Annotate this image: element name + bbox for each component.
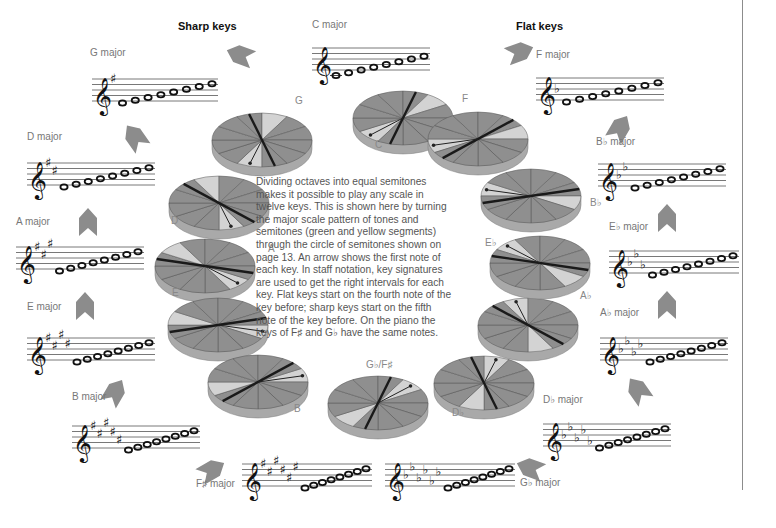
whole-note-icon <box>672 267 679 272</box>
whole-note-icon <box>649 272 656 277</box>
sharp-icon: ♯ <box>52 163 58 178</box>
whole-note-icon <box>471 477 478 482</box>
whole-note-icon <box>56 268 63 273</box>
whole-note-icon <box>109 173 116 178</box>
whole-note-icon <box>145 165 152 170</box>
key-label-eb: E♭ major <box>609 221 648 232</box>
whole-note-icon <box>657 357 664 362</box>
whole-note-icon <box>85 179 92 184</box>
whole-note-icon <box>157 92 164 97</box>
sharp-icon: ♯ <box>45 155 51 170</box>
wheel-label: B <box>294 403 301 414</box>
key-label-b: B major <box>72 391 106 402</box>
whole-note-icon <box>624 437 631 442</box>
whole-note-icon <box>718 256 725 261</box>
whole-note-icon <box>196 84 203 89</box>
flat-icon: ♭ <box>410 460 416 474</box>
sharp-icon: ♯ <box>103 415 109 430</box>
sharp-icon: ♯ <box>110 71 116 86</box>
whole-note-icon <box>680 174 687 179</box>
wheel-4 <box>155 239 255 302</box>
whole-note-icon <box>67 266 74 271</box>
whole-note-icon <box>60 184 67 189</box>
whole-note-icon <box>596 445 603 450</box>
whole-note-icon <box>729 253 736 258</box>
chevron-arrow-icon <box>120 120 151 153</box>
key-label-ab: A♭ major <box>600 307 639 318</box>
flat-icon: ♭ <box>423 463 429 477</box>
whole-note-icon <box>73 359 80 364</box>
whole-note-icon <box>125 447 132 452</box>
staff-db: 𝄞♭♭♭♭♭ <box>543 420 671 461</box>
circle-of-fifths-diagram: Sharp keys Flat keys 𝄞𝄞♯𝄞♯♯𝄞♯♯♯𝄞♯♯♯♯𝄞♯♯♯… <box>0 0 776 528</box>
whole-note-icon <box>706 259 713 264</box>
chevron-arrow-icon <box>658 204 676 232</box>
chevron-arrow-icon <box>504 39 536 65</box>
sharp-icon: ♯ <box>273 453 279 468</box>
key-label-c: C major <box>312 19 347 30</box>
whole-note-icon <box>104 351 111 356</box>
flat-icon: ♭ <box>634 247 640 261</box>
whole-note-icon <box>605 443 612 448</box>
sharp-icon: ♯ <box>52 338 58 353</box>
whole-note-icon <box>641 83 648 88</box>
wheel-10 <box>490 236 590 299</box>
whole-note-icon <box>362 466 369 471</box>
whole-note-icon <box>208 81 215 86</box>
flat-icon: ♭ <box>623 160 629 174</box>
wheel-label: C <box>375 139 382 150</box>
sharp-icon: ♯ <box>293 459 299 474</box>
wheel-2 <box>212 113 312 176</box>
flat-icon: ♭ <box>574 431 580 445</box>
key-label-db: D♭ major <box>543 394 583 405</box>
sharp-icon: ♯ <box>34 239 40 254</box>
sharp-icon: ♯ <box>47 236 53 251</box>
whole-note-icon <box>661 426 668 431</box>
chevron-arrow-icon <box>623 373 654 406</box>
staff-a: 𝄞♯♯♯ <box>16 236 144 284</box>
whole-note-icon <box>453 483 460 488</box>
sharp-icon: ♯ <box>41 247 47 262</box>
flat-icon: ♭ <box>587 434 593 448</box>
wheel-label: B♭ <box>590 197 601 208</box>
whole-note-icon <box>628 86 635 91</box>
whole-note-icon <box>667 354 674 359</box>
whole-note-icon <box>646 359 653 364</box>
whole-note-icon <box>615 88 622 93</box>
whole-note-icon <box>654 80 661 85</box>
chevron-arrow-icon <box>79 208 97 236</box>
whole-note-icon <box>354 469 361 474</box>
whole-note-icon <box>462 480 469 485</box>
chevron-arrow-icon <box>76 292 94 320</box>
whole-note-icon <box>119 100 126 105</box>
whole-note-icon <box>370 65 377 70</box>
whole-note-icon <box>656 180 663 185</box>
flat-icon: ♭ <box>554 82 560 96</box>
flat-icon: ♭ <box>568 420 574 434</box>
whole-note-icon <box>97 176 104 181</box>
whole-note-icon <box>78 263 85 268</box>
whole-note-icon <box>576 97 583 102</box>
flat-icon: ♭ <box>618 342 624 356</box>
wheel-9 <box>478 298 578 361</box>
whole-note-icon <box>497 469 504 474</box>
whole-note-icon <box>115 348 122 353</box>
whole-note-icon <box>420 54 427 59</box>
whole-note-icon <box>444 485 451 490</box>
whole-note-icon <box>133 168 140 173</box>
key-label-d: D major <box>27 131 62 142</box>
sharp-icon: ♯ <box>260 456 266 471</box>
whole-note-icon <box>683 264 690 269</box>
whole-note-icon <box>172 434 179 439</box>
whole-note-icon <box>328 477 335 482</box>
whole-note-icon <box>134 249 141 254</box>
whole-note-icon <box>183 87 190 92</box>
sharp-icon: ♯ <box>65 336 71 351</box>
flat-icon: ♭ <box>561 428 567 442</box>
whole-note-icon <box>695 261 702 266</box>
whole-note-icon <box>145 340 152 345</box>
flat-icon: ♭ <box>631 345 637 359</box>
whole-note-icon <box>644 183 651 188</box>
whole-note-icon <box>479 474 486 479</box>
wheel-12 <box>428 112 528 175</box>
